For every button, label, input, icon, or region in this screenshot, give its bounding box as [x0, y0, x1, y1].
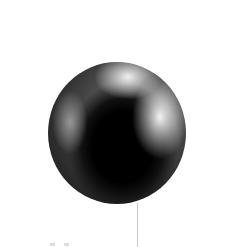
bottom-marks [50, 240, 80, 247]
sphere-image [48, 62, 186, 204]
vertical-line [137, 203, 138, 247]
mark [64, 243, 69, 246]
mark [50, 243, 55, 246]
